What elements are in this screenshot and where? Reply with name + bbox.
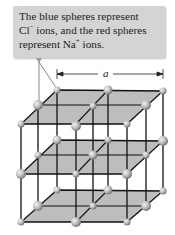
lattice-constant-label: a (103, 67, 109, 79)
nacl-lattice-diagram (0, 0, 175, 235)
ion-spheres (16, 86, 168, 228)
dimension-arrow (57, 69, 163, 79)
